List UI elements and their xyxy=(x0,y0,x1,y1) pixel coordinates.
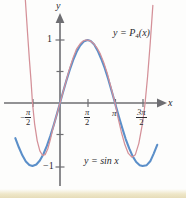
polynomial-label-lhs: y = xyxy=(113,27,127,38)
polynomial-curve-label: y = P4(x) xyxy=(113,28,150,40)
y-axis-arrowhead xyxy=(56,13,65,23)
x-tick-label-half-pi: π2 xyxy=(84,108,90,127)
x-axis-arrowhead xyxy=(157,99,167,108)
x-axis-label: x xyxy=(168,98,172,108)
y-axis-label: y xyxy=(56,1,60,11)
sine-curve-label: y = sin x xyxy=(84,156,119,166)
fraction-three-half-pi: 3π2 xyxy=(136,108,147,127)
x-tick-label-three-half-pi: 3π2 xyxy=(136,108,147,127)
taylor-polynomial-curve xyxy=(24,0,153,157)
fraction-half-pi: π2 xyxy=(84,108,90,127)
x-tick-label-neg-half-pi: −π2 xyxy=(20,108,31,127)
plot-canvas xyxy=(0,0,186,198)
x-tick-label-pi: π xyxy=(112,109,117,118)
polynomial-label-arg: (x) xyxy=(139,27,150,38)
page-bottom-band xyxy=(0,189,186,198)
taylor-polynomial-figure: x y 1 −1 −π2 π2 π 3π2 y = P4(x) y = sin … xyxy=(0,0,186,198)
y-tick-label-negative-one: −1 xyxy=(43,161,54,171)
y-tick-label-one: 1 xyxy=(47,34,52,44)
fraction-neg-half-pi: π2 xyxy=(25,108,31,127)
